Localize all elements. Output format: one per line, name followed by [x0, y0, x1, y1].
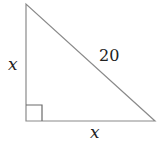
triangle-outline	[26, 4, 155, 121]
left-leg-label: x	[8, 54, 18, 74]
hypotenuse-label: 20	[99, 46, 119, 65]
triangle-diagram: x 20 x	[0, 0, 163, 143]
bottom-leg-label: x	[90, 122, 100, 142]
right-angle-marker	[26, 105, 42, 121]
